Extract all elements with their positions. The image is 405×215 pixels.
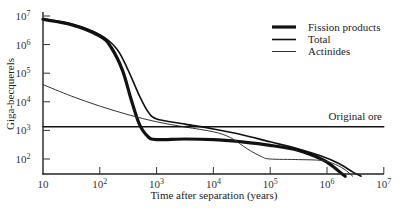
series-fission-products <box>43 19 345 176</box>
legend-label-total: Total <box>308 33 330 45</box>
x-axis-title: Time after separation (years) <box>151 189 278 202</box>
y-tick-label: 103 <box>16 123 31 136</box>
x-tick-label: 104 <box>206 177 221 190</box>
y-tick-label: 107 <box>16 9 31 22</box>
y-tick-label: 106 <box>16 38 31 51</box>
plot-lines <box>43 19 384 176</box>
y-tick-label: 102 <box>16 152 31 165</box>
legend: Fission products Total Actinides <box>272 21 380 58</box>
x-tick-label: 10 <box>38 178 50 190</box>
original-ore-label: Original ore <box>329 110 383 122</box>
legend-label-fission-products: Fission products <box>308 21 380 33</box>
x-tick-label: 105 <box>263 177 278 190</box>
y-tick-label: 104 <box>16 95 31 108</box>
decay-chart: 10102103104105106107 107106105104103102 … <box>0 0 405 215</box>
y-axis-title: Giga-becquerels <box>4 58 16 130</box>
x-tick-label: 107 <box>376 177 391 190</box>
y-tick-label: 105 <box>16 66 31 79</box>
x-tick-label: 106 <box>320 177 335 190</box>
x-tick-label: 102 <box>92 177 107 190</box>
x-tick-label: 103 <box>149 177 164 190</box>
y-ticks: 107106105104103102 <box>16 9 51 165</box>
legend-label-actinides: Actinides <box>308 45 350 57</box>
series-actinides <box>43 85 353 177</box>
